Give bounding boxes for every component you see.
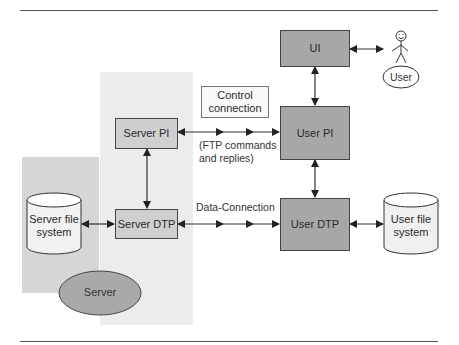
ftp-commands-line2: and replies) <box>199 152 276 165</box>
user-pi-box: User PI <box>280 106 350 160</box>
control-connection-line2: connection <box>208 102 261 115</box>
user-pi-label: User PI <box>297 127 334 140</box>
server-dtp-label: Server DTP <box>118 218 175 231</box>
server-pi-label: Server PI <box>124 127 170 140</box>
server-file-system-line1: Server file <box>25 213 83 226</box>
server-dtp-box: Server DTP <box>115 209 178 239</box>
ui-box: UI <box>280 30 350 67</box>
user-label: User <box>383 71 419 84</box>
user-file-system-line2: system <box>382 226 440 239</box>
user-dtp-label: User DTP <box>291 218 339 231</box>
user-stick-figure-icon <box>392 31 408 63</box>
server-pi-box: Server PI <box>115 118 178 149</box>
user-file-system-label: User file system <box>382 213 440 239</box>
control-connection-box: Control connection <box>201 86 269 118</box>
ftp-commands-line1: (FTP commands <box>199 139 276 152</box>
ui-label: UI <box>310 42 321 55</box>
user-file-system-line1: User file <box>382 213 440 226</box>
ftp-commands-label: (FTP commands and replies) <box>199 139 276 165</box>
data-connection-label: Data-Connection <box>196 201 275 214</box>
server-file-system-line2: system <box>25 226 83 239</box>
server-file-system-label: Server file system <box>25 213 83 239</box>
user-dtp-box: User DTP <box>280 198 350 251</box>
control-connection-line1: Control <box>217 89 252 102</box>
server-label: Server <box>59 286 141 299</box>
